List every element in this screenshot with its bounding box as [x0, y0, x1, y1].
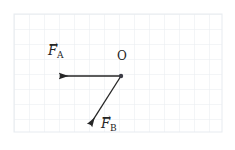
origin-label: O [117, 50, 127, 62]
vector-arrow-hat-icon: → [102, 112, 111, 123]
force-a-label: → F A [48, 44, 64, 57]
vector-layer [0, 0, 235, 150]
origin-point-dot [119, 74, 123, 78]
vector-arrow-hat-icon: → [49, 39, 58, 50]
force-a-symbol-group: → F [48, 44, 57, 57]
force-b-symbol-group: → F [101, 117, 110, 130]
force-b-label: → F B [101, 117, 117, 130]
force-a-subscript: A [57, 50, 64, 60]
force-b-subscript: B [110, 123, 117, 133]
force-vector-diagram: O → F A → F B [0, 0, 235, 150]
